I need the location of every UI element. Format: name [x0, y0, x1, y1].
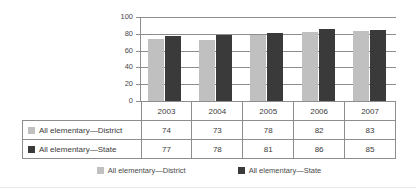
- state-swatch-icon: [28, 146, 35, 153]
- bar-group-2005: [242, 17, 293, 101]
- table-row-label-state: All elementary—State: [23, 140, 142, 159]
- bar-state-2003: [165, 36, 181, 101]
- table-cell-state-2005: 81: [243, 140, 294, 159]
- table-cell-district-2006: 82: [294, 121, 345, 140]
- bar-group-2003: [140, 17, 191, 101]
- table-row: All elementary—State7778818685: [23, 140, 396, 159]
- table-cell-district-2003: 74: [141, 121, 192, 140]
- table-row-label-text: All elementary—District: [39, 126, 122, 135]
- table-cell-state-2004: 78: [192, 140, 243, 159]
- y-axis-label-20: 20: [125, 80, 133, 88]
- table-row-label-text: All elementary—State: [39, 145, 116, 154]
- state-swatch-icon: [238, 167, 245, 174]
- legend-item-label: All elementary—District: [108, 166, 186, 175]
- table-column-header-2003: 2003: [141, 102, 192, 121]
- bar-group-2004: [191, 17, 242, 101]
- bar-district-2005: [250, 35, 266, 101]
- y-axis-label-60: 60: [125, 47, 133, 55]
- bar-district-2007: [353, 31, 369, 101]
- bar-group-2006: [294, 17, 345, 101]
- data-table: 20032004200520062007All elementary—Distr…: [22, 101, 396, 159]
- table-column-header-2007: 2007: [345, 102, 396, 121]
- chart-legend: All elementary—DistrictAll elementary—St…: [22, 166, 396, 175]
- table-cell-district-2004: 73: [192, 121, 243, 140]
- table-row: All elementary—District7473788283: [23, 121, 396, 140]
- district-swatch-icon: [97, 167, 104, 174]
- table-cell-state-2006: 86: [294, 140, 345, 159]
- legend-item-district[interactable]: All elementary—District: [97, 166, 186, 175]
- district-swatch-icon: [28, 127, 35, 134]
- bar-state-2004: [216, 35, 232, 101]
- y-axis-label-100: 100: [120, 13, 133, 21]
- table-column-header-2004: 2004: [192, 102, 243, 121]
- table-row-label-district: All elementary—District: [23, 121, 142, 140]
- y-axis-label-80: 80: [125, 30, 133, 38]
- bars-container: [140, 17, 396, 101]
- bar-state-2005: [267, 33, 283, 101]
- table-cell-state-2007: 85: [345, 140, 396, 159]
- table-corner-cell: [23, 102, 142, 121]
- table-cell-district-2007: 83: [345, 121, 396, 140]
- bar-district-2004: [199, 40, 215, 101]
- bar-chart-figure: 020406080100 20032004200520062007All ele…: [0, 0, 416, 189]
- bar-district-2003: [148, 39, 164, 101]
- legend-item-label: All elementary—State: [249, 166, 322, 175]
- table-column-header-2006: 2006: [294, 102, 345, 121]
- bar-state-2006: [319, 29, 335, 101]
- bottom-divider: [0, 187, 416, 188]
- plot-area: 020406080100: [140, 17, 396, 101]
- bar-state-2007: [370, 30, 386, 101]
- table-header-row: 20032004200520062007: [23, 102, 396, 121]
- table-cell-district-2005: 78: [243, 121, 294, 140]
- table-column-header-2005: 2005: [243, 102, 294, 121]
- legend-item-state[interactable]: All elementary—State: [238, 166, 322, 175]
- table-cell-state-2003: 77: [141, 140, 192, 159]
- bar-district-2006: [302, 32, 318, 101]
- y-axis-label-40: 40: [125, 64, 133, 72]
- bar-group-2007: [345, 17, 396, 101]
